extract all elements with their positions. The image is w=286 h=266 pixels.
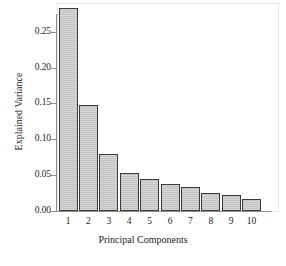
x-axis-tick-label: 8 (200, 216, 222, 226)
bar (140, 179, 159, 211)
x-axis-tick-label: 7 (179, 216, 201, 226)
x-axis-tick-label: 9 (220, 216, 242, 226)
x-axis-tick-label: 10 (241, 216, 263, 226)
y-axis-tick-label: 0.05 (17, 169, 51, 179)
bar (99, 154, 118, 211)
x-axis-tick-label: 3 (98, 216, 120, 226)
plot-area (57, 3, 279, 212)
x-axis-tick-label: 2 (77, 216, 99, 226)
bar (59, 8, 78, 211)
y-axis-tick-label: 0.15 (17, 97, 51, 107)
y-axis-tick-label: 0.00 (17, 205, 51, 215)
x-axis-line (57, 211, 271, 212)
x-axis-tick-label: 6 (159, 216, 181, 226)
x-axis-tick-label: 1 (57, 216, 79, 226)
y-axis-tick-label: 0.20 (17, 62, 51, 72)
bar (120, 173, 139, 211)
x-axis-tick-label: 5 (139, 216, 161, 226)
bar (222, 195, 241, 211)
bar (201, 193, 220, 211)
bar (242, 199, 261, 211)
explained-variance-scree-chart: Explained Variance 0.000.050.100.150.200… (0, 0, 286, 266)
bar (181, 187, 200, 211)
bar (79, 105, 98, 211)
bar (161, 184, 180, 211)
x-axis-tick-label: 4 (118, 216, 140, 226)
y-axis-tick-label: 0.25 (17, 26, 51, 36)
y-axis-tick-label: 0.10 (17, 133, 51, 143)
x-axis-title: Principal Components (0, 234, 286, 245)
